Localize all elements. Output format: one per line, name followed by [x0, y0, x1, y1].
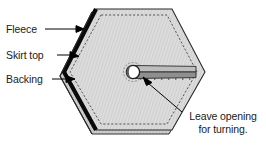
callout-label-skirt-top: Skirt top: [6, 49, 44, 61]
callout-label-leave-opening: Leave opening for turning.: [181, 110, 265, 136]
diagram-canvas: Fleece Skirt top Backing Leave opening f…: [0, 0, 266, 148]
leave-opening-line-2: for turning.: [199, 123, 248, 135]
leave-opening-line-1: Leave opening: [189, 110, 257, 122]
callout-label-fleece: Fleece: [6, 23, 37, 35]
callout-label-backing: Backing: [6, 73, 43, 85]
